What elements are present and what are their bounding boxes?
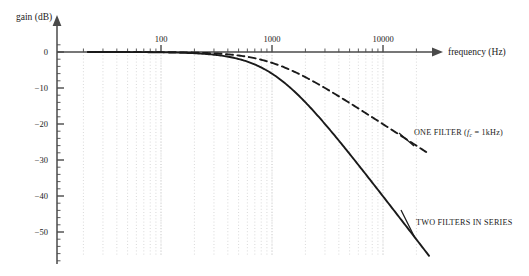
x-axis-title: frequency (Hz)	[448, 47, 506, 58]
y-axis-arrowhead	[53, 15, 62, 26]
two-filters-leader-line	[401, 210, 415, 238]
grid-lines	[83, 52, 416, 255]
two-filters-annotation: TWO FILTERS IN SERIES	[416, 218, 513, 227]
y-tick-label-minus-30: −30	[35, 155, 48, 165]
x-tick-label-1000: 1000	[264, 34, 281, 44]
one-filter-annotation-prefix: ONE FILTER (	[414, 128, 467, 137]
y-tick-label-minus-20: −20	[35, 119, 48, 129]
x-tick-label-100: 100	[155, 34, 168, 44]
one-filter-annotation: ONE FILTER (fc = 1kHz)	[414, 128, 503, 138]
chart-canvas: 100 1000 10000 0 −10 −20 −30 −40 −50 gai…	[0, 0, 529, 276]
one-filter-annotation-suffix: = 1kHz)	[472, 128, 503, 137]
y-axis-ticks	[57, 45, 64, 261]
y-tick-label-0: 0	[44, 47, 48, 57]
x-tick-label-10000: 10000	[372, 34, 393, 44]
x-axis-ticks	[83, 45, 416, 52]
y-tick-label-minus-40: −40	[35, 191, 48, 201]
one-filter-leader-line	[399, 133, 414, 146]
bode-plot-figure: 100 1000 10000 0 −10 −20 −30 −40 −50 gai…	[0, 0, 529, 276]
y-tick-label-minus-50: −50	[35, 227, 48, 237]
x-axis-arrowhead	[432, 48, 443, 57]
y-axis-title: gain (dB)	[16, 12, 52, 23]
y-tick-label-minus-10: −10	[35, 83, 48, 93]
